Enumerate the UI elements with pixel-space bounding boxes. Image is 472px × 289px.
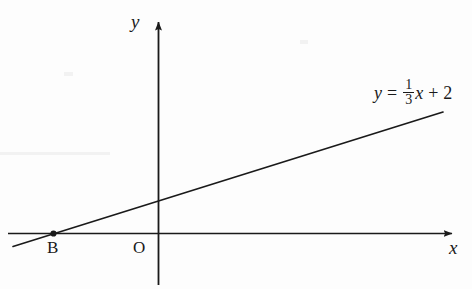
- fraction-denominator: 3: [403, 93, 414, 107]
- fraction-numerator: 1: [403, 78, 414, 92]
- equation-plus-sign: +: [428, 84, 438, 102]
- equation-label: y = 1 3 x + 2: [374, 78, 452, 108]
- equation-constant: 2: [443, 84, 452, 102]
- equation-lhs: y: [374, 84, 382, 102]
- y-axis-label: y: [131, 12, 139, 31]
- equation-variable: x: [415, 84, 423, 102]
- point-b-label: B: [47, 239, 58, 256]
- graph-canvas: [0, 0, 472, 289]
- origin-label: O: [133, 239, 145, 256]
- equation-equals-sign: =: [387, 84, 397, 102]
- equation-fraction: 1 3: [403, 78, 414, 108]
- x-axis-label: x: [449, 238, 457, 257]
- line-graph: [13, 112, 443, 247]
- point-b-marker: [50, 230, 56, 236]
- graph-figure: y x B O y = 1 3 x + 2: [0, 0, 472, 289]
